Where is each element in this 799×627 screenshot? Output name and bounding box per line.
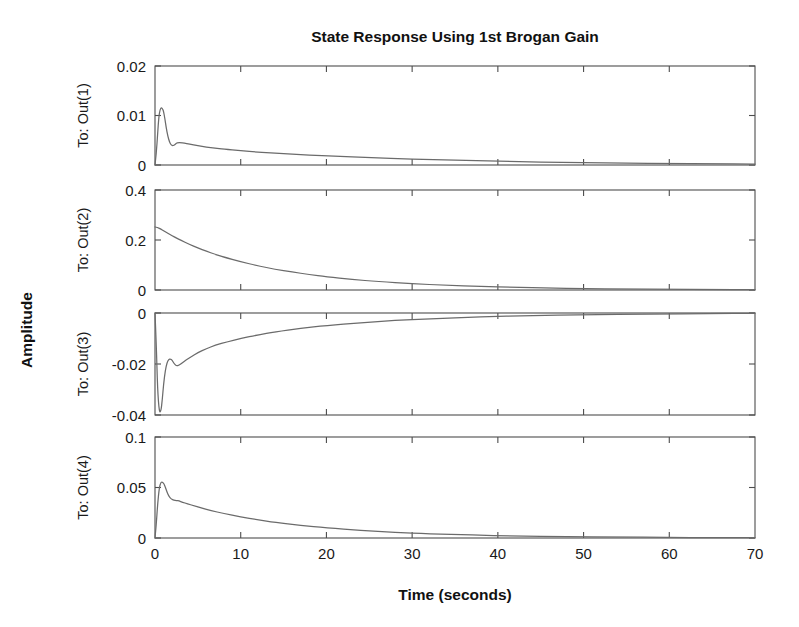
subplot-row-label: To: Out(3)	[75, 332, 91, 396]
subplot-row-label: To: Out(1)	[75, 83, 91, 147]
x-tick-label: 20	[318, 545, 335, 562]
y-tick-label: 0	[138, 305, 146, 322]
y-tick-label: 0.2	[125, 232, 146, 249]
data-line	[155, 313, 755, 412]
subplot-row-label: To: Out(4)	[75, 455, 91, 519]
x-tick-label: 70	[747, 545, 764, 562]
y-tick-label: 0	[138, 530, 146, 547]
y-tick-label: 0.05	[117, 479, 146, 496]
x-tick-labels: 010203040506070	[151, 545, 764, 562]
chart-title: State Response Using 1st Brogan Gain	[311, 28, 599, 45]
y-tick-label: -0.02	[112, 356, 146, 373]
y-tick-label: 0	[138, 157, 146, 174]
y-tick-label: 0.4	[125, 182, 146, 199]
y-axis-label: Amplitude	[18, 292, 35, 368]
y-tick-label: 0.02	[117, 58, 146, 75]
subplot-1: 00.010.02To: Out(1)	[75, 58, 755, 174]
subplot-2: 00.20.4To: Out(2)	[75, 182, 755, 299]
subplot-4: 00.050.1To: Out(4)	[75, 429, 755, 547]
y-tick-label: 0.01	[117, 107, 146, 124]
subplot-frame	[155, 313, 755, 415]
x-tick-label: 50	[575, 545, 592, 562]
subplot-row-label: To: Out(2)	[75, 208, 91, 272]
y-tick-label: 0	[138, 282, 146, 299]
state-response-chart: State Response Using 1st Brogan Gain Amp…	[0, 0, 799, 627]
x-tick-label: 0	[151, 545, 159, 562]
data-line	[155, 227, 755, 290]
subplot-group: 00.010.02To: Out(1)00.20.4To: Out(2)-0.0…	[75, 58, 755, 547]
x-tick-label: 30	[404, 545, 421, 562]
data-line	[155, 482, 755, 538]
data-line	[155, 108, 755, 165]
x-tick-label: 60	[661, 545, 678, 562]
chart-figure: State Response Using 1st Brogan Gain Amp…	[0, 0, 799, 627]
x-axis-label: Time (seconds)	[398, 586, 511, 603]
subplot-frame	[155, 66, 755, 165]
y-tick-label: -0.04	[112, 407, 146, 424]
subplot-3: -0.04-0.020To: Out(3)	[75, 305, 755, 424]
subplot-frame	[155, 437, 755, 538]
y-tick-label: 0.1	[125, 429, 146, 446]
subplot-frame	[155, 190, 755, 290]
x-tick-label: 40	[490, 545, 507, 562]
x-tick-label: 10	[232, 545, 249, 562]
